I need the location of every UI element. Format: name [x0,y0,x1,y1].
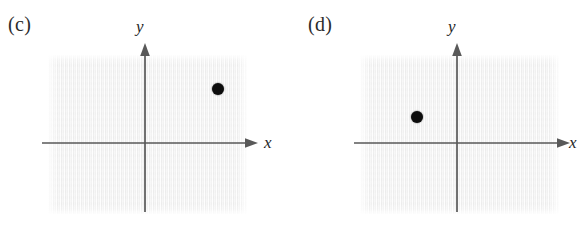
panel-c-y-axis-label: y [136,18,144,35]
panel-d-plotted-point [411,111,423,123]
panel-d-y-axis-label: y [448,18,456,35]
panel-d-x-axis-label: x [569,134,577,151]
panel-c-label: (c) [8,14,31,34]
panel-c: (c) y x [0,0,289,235]
panel-d-label: (d) [308,14,332,34]
figure-container: (c) y x (d) y [0,0,577,235]
panel-c-plot-area [48,55,247,214]
panel-d-plot-area [360,55,559,214]
panel-c-plotted-point [212,83,224,95]
panel-d: (d) y x [288,0,577,235]
panel-c-x-axis-label: x [264,134,272,151]
